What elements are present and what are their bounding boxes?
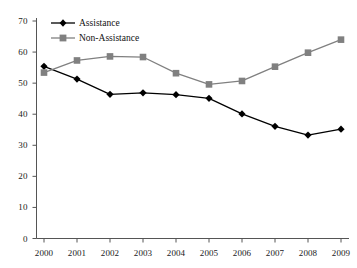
line-chart: 010203040506070 200020012002200320042005… (0, 0, 357, 268)
x-axis-ticks (44, 239, 341, 243)
data-point (107, 53, 114, 60)
x-axis-tick-label: 2002 (95, 248, 125, 258)
chart-legend: Assistance Non-Assistance (50, 17, 139, 44)
legend-entry-assistance: Assistance (50, 17, 139, 29)
x-axis-tick-label: 2009 (326, 248, 356, 258)
x-axis-tick-label: 2005 (194, 248, 224, 258)
legend-label-non-assistance: Non-Assistance (79, 32, 139, 44)
axis-lines (37, 18, 350, 239)
x-axis-tick-label: 2007 (260, 248, 290, 258)
non-assistance-marker-icon (50, 32, 76, 44)
x-axis-tick-label: 2003 (128, 248, 158, 258)
data-point (271, 123, 278, 130)
y-axis-tick-label: 50 (10, 78, 28, 88)
data-point (337, 126, 344, 133)
y-axis-tick-label: 30 (10, 140, 28, 150)
y-axis-tick-label: 10 (10, 202, 28, 212)
data-point (106, 91, 113, 98)
series-line (44, 40, 341, 85)
data-point (238, 110, 245, 117)
y-axis-ticks (33, 21, 37, 239)
y-axis-tick-label: 0 (10, 234, 28, 244)
y-axis-tick-label: 70 (10, 16, 28, 26)
data-point (304, 131, 311, 138)
data-point (40, 63, 47, 70)
data-point (205, 95, 212, 102)
data-point (172, 91, 179, 98)
x-axis-tick-label: 2000 (29, 248, 59, 258)
y-axis-tick-label: 20 (10, 171, 28, 181)
legend-entry-non-assistance: Non-Assistance (50, 32, 139, 44)
data-point (305, 49, 312, 56)
data-point (41, 69, 48, 76)
x-axis-tick-label: 2008 (293, 248, 323, 258)
series-non-assistance (41, 36, 345, 87)
data-series-layer (40, 36, 344, 138)
data-point (206, 81, 213, 88)
x-axis-tick-label: 2001 (62, 248, 92, 258)
data-point (139, 89, 146, 96)
legend-label-assistance: Assistance (79, 17, 120, 29)
y-axis-tick-label: 60 (10, 47, 28, 57)
assistance-marker-icon (50, 17, 76, 29)
data-point (74, 57, 81, 64)
x-axis-tick-label: 2004 (161, 248, 191, 258)
y-axis-tick-label: 40 (10, 109, 28, 119)
series-assistance (40, 63, 344, 139)
data-point (140, 54, 147, 61)
data-point (239, 78, 246, 85)
x-axis-tick-label: 2006 (227, 248, 257, 258)
data-point (338, 36, 345, 43)
data-point (173, 70, 180, 77)
data-point (73, 76, 80, 83)
series-line (44, 66, 341, 135)
data-point (272, 63, 279, 70)
